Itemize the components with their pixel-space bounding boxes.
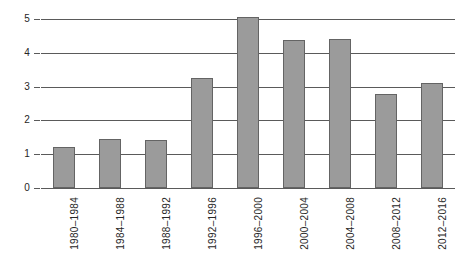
y-tick-label: 5 xyxy=(4,14,30,24)
y-tick-mark-0 xyxy=(34,188,40,189)
y-tick-label: 4 xyxy=(4,48,30,58)
x-axis: 1980–19841984–19881988–19921992–19961996… xyxy=(41,193,455,269)
y-tick-mark-4 xyxy=(34,53,40,54)
x-tick-label: 1980–1984 xyxy=(69,197,80,250)
y-tick-label: 1 xyxy=(4,149,30,159)
x-tick-label: 1996–2000 xyxy=(253,197,264,250)
y-tick-label: 3 xyxy=(4,82,30,92)
x-tick-label: 1992–1996 xyxy=(207,197,218,250)
x-tick-label: 2008–2012 xyxy=(391,197,402,250)
y-tick-label: 0 xyxy=(4,183,30,193)
x-tick-label: 2004–2008 xyxy=(345,197,356,250)
y-tick-mark-3 xyxy=(34,87,40,88)
x-tick-label: 2000–2004 xyxy=(299,197,310,250)
y-tick-mark-2 xyxy=(34,120,40,121)
bar-chart: 012345 1980–19841984–19881988–19921992–1… xyxy=(0,0,469,269)
x-tick-label: 2012–2016 xyxy=(437,197,448,250)
y-tick-mark-1 xyxy=(34,154,40,155)
x-tick-label: 1984–1988 xyxy=(115,197,126,250)
x-tick-label: 1988–1992 xyxy=(161,197,172,250)
y-tick-label: 2 xyxy=(4,115,30,125)
y-tick-mark-5 xyxy=(34,19,40,20)
